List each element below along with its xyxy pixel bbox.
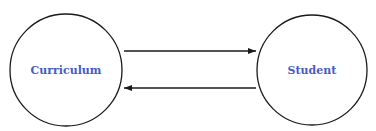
node-curriculum: Curriculum: [10, 14, 122, 126]
diagram-canvas: Curriculum Student: [0, 0, 376, 131]
curriculum-label: Curriculum: [30, 64, 101, 77]
student-label: Student: [288, 64, 338, 77]
node-student: Student: [257, 15, 367, 125]
